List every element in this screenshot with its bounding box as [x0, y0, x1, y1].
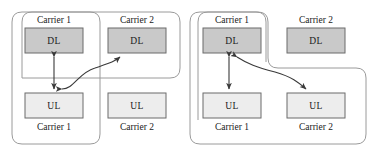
right-bottom-carrier2-label: Carrier 2	[299, 122, 333, 132]
right-diagram: Carrier 1 Carrier 2 DL DL UL UL Carrier …	[190, 12, 366, 144]
left-ul2-label: UL	[130, 101, 143, 111]
left-top-carrier2-label: Carrier 2	[120, 15, 154, 25]
diagram-canvas: Carrier 1 Carrier 2 DL DL UL UL Carrier …	[0, 0, 378, 156]
left-dl2-label: DL	[130, 36, 143, 46]
left-top-carrier1-label: Carrier 1	[37, 15, 71, 25]
right-dl1-label: DL	[225, 36, 238, 46]
right-ul1-label: UL	[225, 101, 238, 111]
left-diagram: Carrier 1 Carrier 2 DL DL UL UL Carrier …	[12, 12, 180, 144]
right-top-carrier1-label: Carrier 1	[215, 15, 249, 25]
right-dl2-label: DL	[309, 36, 322, 46]
left-bottom-carrier1-label: Carrier 1	[37, 122, 71, 132]
left-arrow-ul1-dl2	[62, 57, 120, 89]
left-ul1-label: UL	[47, 101, 60, 111]
right-top-carrier2-label: Carrier 2	[299, 15, 333, 25]
left-bottom-carrier2-label: Carrier 2	[120, 122, 154, 132]
right-ul2-label: UL	[309, 101, 322, 111]
left-dl1-label: DL	[47, 36, 60, 46]
right-bottom-carrier1-label: Carrier 1	[215, 122, 249, 132]
figure-root: Carrier 1 Carrier 2 DL DL UL UL Carrier …	[0, 0, 378, 156]
right-arrow-dl1-ul2	[237, 57, 306, 89]
